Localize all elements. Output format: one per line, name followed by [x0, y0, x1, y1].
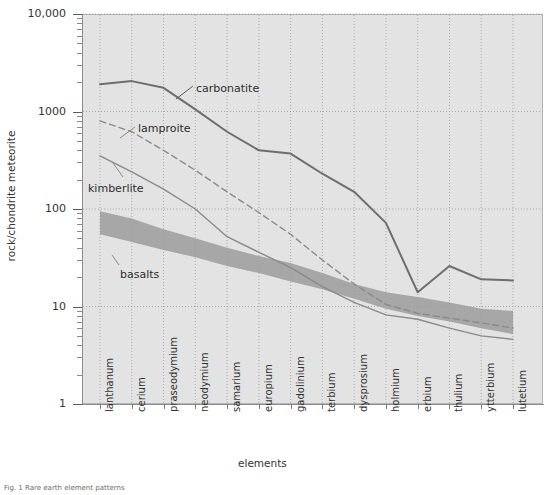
x-tick	[100, 404, 101, 409]
y-tick-minor	[77, 53, 82, 54]
series-label-kimberlite: kimberlite	[88, 182, 144, 195]
x-tick	[354, 404, 355, 409]
x-tick	[227, 404, 228, 409]
x-tick	[513, 404, 514, 409]
x-tick	[481, 404, 482, 409]
y-tick-minor	[77, 141, 82, 142]
y-tick-minor	[77, 357, 82, 358]
y-tick-minor	[77, 316, 82, 317]
series-label-basalts: basalts	[120, 268, 159, 281]
y-tick-major	[73, 404, 82, 405]
x-tick-label-europium: europium	[263, 364, 274, 412]
y-tick-minor	[77, 213, 82, 214]
x-tick-label-ytterbium: ytterbium	[485, 363, 496, 412]
y-axis-title: rock/chondrite meteorite	[5, 111, 17, 281]
y-tick-minor	[77, 231, 82, 232]
y-tick-minor	[77, 375, 82, 376]
y-tick-major	[73, 14, 82, 15]
x-tick	[322, 404, 323, 409]
y-tick-minor	[77, 127, 82, 128]
y-tick-minor	[77, 218, 82, 219]
x-tick-label-lanthanum: lanthanum	[104, 358, 115, 412]
x-tick-label-lutetium: lutetium	[517, 370, 528, 412]
x-axis-line	[82, 404, 544, 405]
x-tick	[291, 404, 292, 409]
x-tick	[386, 404, 387, 409]
y-tick-minor	[77, 133, 82, 134]
y-tick-minor	[77, 336, 82, 337]
y-tick-minor	[77, 29, 82, 30]
x-tick-label-gadolinium: gadolinium	[295, 356, 306, 412]
y-tick-minor	[77, 162, 82, 163]
chart-figure: 10,0001000100101 rock/chondrite meteorit…	[0, 0, 555, 495]
y-tick-minor	[77, 121, 82, 122]
y-tick-minor	[77, 116, 82, 117]
y-tick-minor	[77, 238, 82, 239]
y-tick-minor	[77, 260, 82, 261]
x-tick	[418, 404, 419, 409]
x-tick-label-samarium: samarium	[231, 362, 242, 412]
x-tick-label-terbium: terbium	[326, 373, 337, 412]
x-tick-label-thulium: thulium	[453, 374, 464, 412]
y-tick-minor	[77, 36, 82, 37]
y-axis-line	[82, 14, 83, 404]
figure-caption: Fig. 1 Rare earth element patterns	[4, 484, 125, 492]
x-tick-label-neodymium: neodymium	[199, 353, 210, 412]
x-tick	[132, 404, 133, 409]
y-tick-minor	[77, 82, 82, 83]
y-tick-major	[73, 209, 82, 210]
plot-area	[82, 14, 543, 404]
y-tick-minor	[77, 224, 82, 225]
x-tick-label-dysprosium: dysprosium	[358, 354, 369, 412]
y-tick-label: 10	[2, 301, 66, 312]
y-tick-minor	[77, 277, 82, 278]
y-tick-minor	[77, 180, 82, 181]
series-label-carbonatite: carbonatite	[196, 82, 259, 95]
x-tick-label-holmium: holmium	[390, 368, 401, 412]
x-tick-label-cerium: cerium	[136, 377, 147, 412]
y-tick-minor	[77, 248, 82, 249]
y-tick-minor	[77, 43, 82, 44]
x-tick	[449, 404, 450, 409]
y-tick-minor	[77, 311, 82, 312]
y-tick-minor	[77, 328, 82, 329]
x-tick-label-praseodymium: praseodymium	[168, 337, 179, 412]
y-tick-minor	[77, 23, 82, 24]
y-tick-label: 1	[2, 398, 66, 409]
y-tick-label: 10,000	[2, 8, 66, 19]
y-tick-major	[73, 307, 82, 308]
y-tick-minor	[77, 345, 82, 346]
y-tick-major	[73, 112, 82, 113]
y-tick-minor	[77, 322, 82, 323]
y-tick-minor	[77, 65, 82, 66]
x-tick	[195, 404, 196, 409]
y-tick-minor	[77, 18, 82, 19]
x-tick	[164, 404, 165, 409]
x-tick-label-erbium: erbium	[422, 377, 433, 412]
x-tick	[259, 404, 260, 409]
x-axis-title: elements	[238, 457, 287, 469]
y-tick-minor	[77, 150, 82, 151]
series-label-lamproite: lamproite	[138, 122, 191, 135]
